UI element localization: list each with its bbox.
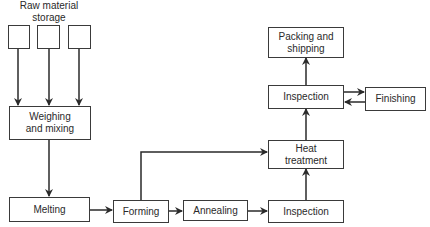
weighing-line2: and mixing: [26, 123, 74, 135]
inspection-lower-label: Inspection: [283, 206, 329, 218]
storage-bin-2: [37, 25, 60, 49]
storage-label-line1: Raw material: [14, 0, 84, 12]
inspection-upper-label: Inspection: [283, 91, 329, 103]
annealing-label: Annealing: [193, 205, 237, 217]
heat-treatment-line2: treatment: [285, 155, 327, 167]
storage-bin-1: [8, 25, 30, 49]
storage-label: Raw material storage: [14, 0, 84, 24]
finishing-label: Finishing: [375, 93, 415, 105]
node-heat-treatment: Heat treatment: [268, 140, 344, 169]
node-melting: Melting: [9, 197, 90, 222]
node-forming: Forming: [113, 200, 169, 223]
node-packing-shipping: Packing and shipping: [268, 27, 344, 58]
packing-line2: shipping: [287, 43, 324, 55]
arrow-forming-heat-treatment: [141, 152, 267, 200]
heat-treatment-line1: Heat: [295, 143, 316, 155]
forming-label: Forming: [123, 206, 160, 218]
storage-label-line2: storage: [14, 12, 84, 24]
node-inspection-lower: Inspection: [268, 200, 344, 223]
node-inspection-upper: Inspection: [268, 85, 344, 109]
node-finishing: Finishing: [365, 87, 426, 111]
packing-line1: Packing and: [278, 31, 333, 43]
storage-bin-3: [68, 25, 91, 49]
node-weighing-mixing: Weighing and mixing: [9, 106, 91, 140]
weighing-line1: Weighing: [29, 111, 71, 123]
node-annealing: Annealing: [183, 200, 248, 221]
melting-label: Melting: [33, 204, 65, 216]
